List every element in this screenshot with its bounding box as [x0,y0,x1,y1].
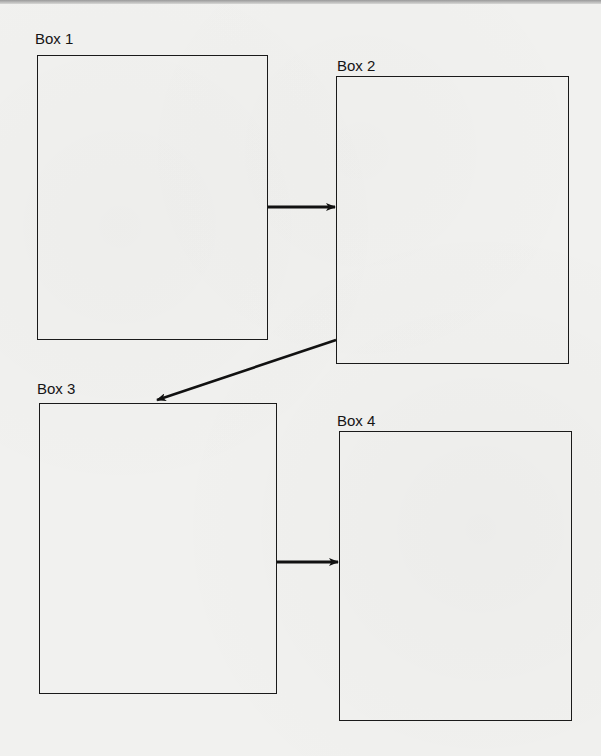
arrow-box2-to-box3 [157,340,336,400]
arrows-layer [0,0,601,756]
